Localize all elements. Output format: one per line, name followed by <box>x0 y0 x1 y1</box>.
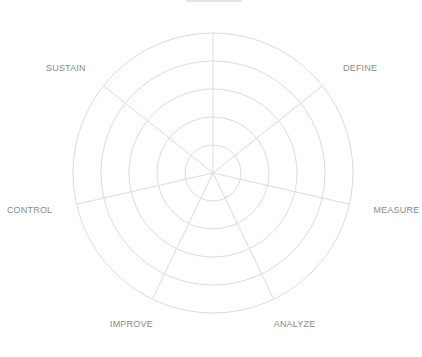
axis-label: CONTROL <box>7 205 52 215</box>
grid-spokes <box>77 33 350 299</box>
axis-label: IMPROVE <box>110 319 153 329</box>
grid-spoke <box>77 173 214 204</box>
axis-label: MEASURE <box>373 205 419 215</box>
clipped-top-axis-label <box>186 0 242 2</box>
grid-spoke <box>213 173 274 299</box>
axis-label: DEFINE <box>343 63 377 73</box>
axis-label: ANALYZE <box>274 319 316 329</box>
grid-spoke <box>213 173 350 204</box>
axis-label: SUSTAIN <box>46 63 86 73</box>
radar-chart-canvas: DEFINEMEASUREANALYZEIMPROVECONTROLSUSTAI… <box>0 0 422 357</box>
radar-chart: DEFINEMEASUREANALYZEIMPROVECONTROLSUSTAI… <box>0 0 422 357</box>
grid-spoke <box>152 173 213 299</box>
